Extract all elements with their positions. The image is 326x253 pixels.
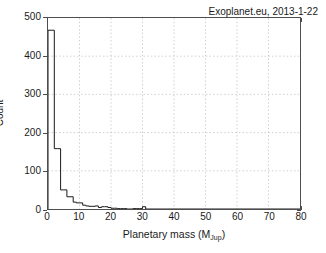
histogram-step-trace [48, 18, 300, 209]
histogram-outline [48, 30, 300, 209]
source-annotation: Exoplanet.eu, 2013-1-22 [208, 6, 318, 17]
x-tick-mark [301, 206, 302, 210]
x-tick-label: 60 [232, 212, 243, 222]
x-tick-label: 0 [44, 212, 50, 222]
figure-canvas: Count 0100200300400500 01020304050607080… [0, 0, 326, 253]
x-axis-label-subscript: Jup [210, 234, 221, 241]
x-axis-label: Planetary mass (MJup) [123, 228, 225, 242]
x-tick-mark-top [301, 18, 302, 22]
y-tick-label: 200 [24, 128, 41, 138]
x-tick-label: 80 [295, 212, 306, 222]
y-tick-label: 0 [35, 205, 41, 215]
x-tick-label: 10 [73, 212, 84, 222]
x-tick-label: 70 [264, 212, 275, 222]
y-tick-label: 300 [24, 89, 41, 99]
x-tick-label: 50 [200, 212, 211, 222]
plot-area [47, 17, 301, 210]
y-axis-label: Count [0, 100, 5, 127]
y-tick-label: 100 [24, 166, 41, 176]
x-axis-label-close: ) [222, 228, 226, 240]
y-tick-label: 400 [24, 51, 41, 61]
x-tick-label: 30 [137, 212, 148, 222]
x-tick-label: 20 [105, 212, 116, 222]
y-tick-label: 500 [24, 12, 41, 22]
x-tick-label: 40 [168, 212, 179, 222]
x-axis-label-main: Planetary mass (M [123, 228, 211, 240]
